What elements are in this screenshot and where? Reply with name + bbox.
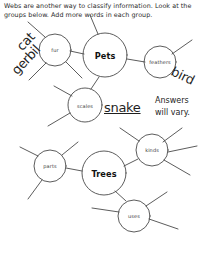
connector-parts-to-trees bbox=[66, 168, 82, 171]
node-circle-pets[interactable] bbox=[83, 33, 127, 77]
worksheet-page: Webs are another way to classify informa… bbox=[0, 0, 205, 254]
connector-pets-to-feathers bbox=[127, 59, 145, 62]
blank-spoke-pets-1 bbox=[90, 15, 98, 34]
answers-will-vary-note: Answers will vary. bbox=[155, 95, 190, 118]
student-word-snake: snake bbox=[104, 100, 141, 115]
blank-spoke-kinds-4 bbox=[120, 128, 139, 141]
blank-spoke-uses-3 bbox=[149, 219, 178, 229]
pets-web-connectors bbox=[70, 51, 145, 89]
blank-spoke-parts-3 bbox=[62, 142, 78, 155]
blank-spoke-uses-2 bbox=[146, 192, 167, 206]
node-circle-kinds[interactable] bbox=[136, 134, 168, 166]
blank-spoke-scales-1 bbox=[54, 86, 72, 96]
node-circle-scales[interactable] bbox=[68, 88, 102, 122]
parts-blank-spokes bbox=[20, 142, 78, 199]
connector-fur-to-pets bbox=[70, 51, 84, 54]
node-circle-parts[interactable] bbox=[34, 150, 66, 182]
feathers-blank-spokes bbox=[172, 40, 192, 54]
blank-spoke-feathers-1 bbox=[172, 40, 192, 54]
connector-pets-to-scales bbox=[91, 77, 99, 89]
blank-spoke-kinds-1 bbox=[163, 128, 182, 142]
blank-spoke-fur-3 bbox=[66, 62, 82, 78]
pets-blank-spokes bbox=[90, 15, 98, 34]
node-circle-fur[interactable] bbox=[39, 34, 71, 66]
blank-spoke-parts-2 bbox=[28, 180, 42, 199]
blank-spoke-uses-1 bbox=[92, 208, 119, 212]
uses-blank-spokes bbox=[92, 192, 178, 229]
node-circle-uses[interactable] bbox=[118, 200, 150, 232]
blank-spoke-kinds-3 bbox=[164, 160, 190, 175]
blank-spoke-parts-1 bbox=[20, 147, 38, 156]
blank-spoke-fur-2 bbox=[29, 63, 46, 80]
blank-spoke-kinds-2 bbox=[168, 146, 197, 152]
connector-trees-to-kinds bbox=[124, 159, 138, 166]
blank-spoke-scales-2 bbox=[48, 113, 70, 126]
node-circle-trees[interactable] bbox=[82, 151, 126, 195]
connector-trees-to-uses bbox=[115, 191, 126, 201]
